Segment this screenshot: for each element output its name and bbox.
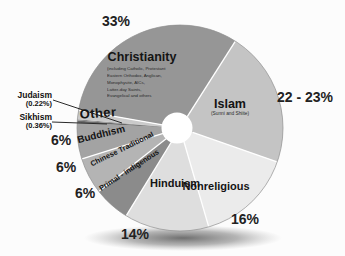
christianity-detail-line: Monophysite, AICs,	[107, 79, 201, 86]
world-religions-pie-chart: 33% 22 - 23% 16% 14% 6% 6% 6% Christiani…	[0, 0, 345, 256]
christianity-percent-label: 33%	[102, 13, 130, 29]
christianity-detail-line: Latter-day Saints,	[107, 86, 201, 93]
buddhism-percent-label: 6%	[51, 132, 71, 148]
primal-indigenous-percent-label: 6%	[75, 185, 95, 201]
christianity-detail-line: Evangelical and others	[107, 93, 201, 100]
christianity-detail-line: (including Catholic, Protestant	[107, 66, 201, 73]
other-slice-label: Other	[79, 104, 117, 122]
nonreligious-slice-label: Nonreligious	[182, 180, 249, 192]
sikhism-callout: Sikhism (0.36%)	[6, 113, 52, 130]
islam-detail-text: (Sunni and Shiite)	[211, 110, 249, 115]
chinese-traditional-percent-label: 6%	[56, 159, 76, 175]
donut-hole	[162, 113, 193, 144]
judaism-callout-percent: (0.22%)	[10, 100, 52, 109]
islam-percent-label: 22 - 23%	[277, 89, 333, 105]
hinduism-percent-label: 14%	[121, 226, 149, 242]
christianity-detail-text: (including Catholic, Protestant Eastern …	[107, 66, 201, 100]
christianity-slice-label: Christianity	[108, 50, 177, 64]
nonreligious-percent-label: 16%	[231, 211, 259, 227]
christianity-detail-line: Eastern Orthodox, Anglican,	[107, 73, 201, 80]
judaism-callout: Judaism (0.22%)	[10, 91, 52, 108]
sikhism-callout-percent: (0.36%)	[6, 122, 52, 131]
islam-slice-label: Islam	[214, 97, 246, 111]
